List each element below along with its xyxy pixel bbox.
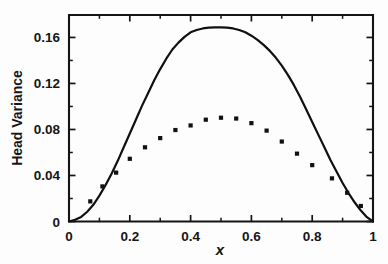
y-tick-label: 0.08 — [34, 122, 61, 137]
data-point-marker — [234, 116, 238, 120]
head-variance-plot: 00.040.080.120.1600.20.40.60.81 Head Var… — [0, 0, 388, 264]
axis-tick-labels: 00.040.080.120.1600.20.40.60.81 — [34, 30, 378, 243]
analytical-curve-series — [69, 27, 373, 221]
y-tick-label: 0 — [52, 215, 60, 230]
numerical-points-series — [88, 116, 363, 208]
y-tick-label: 0.04 — [34, 168, 61, 183]
data-point-marker — [189, 123, 193, 127]
x-tick-label: 0 — [65, 229, 73, 244]
data-point-marker — [100, 184, 104, 188]
data-point-marker — [249, 121, 253, 125]
y-tick-label: 0.12 — [34, 76, 60, 91]
x-tick-label: 0.8 — [303, 229, 322, 244]
data-point-marker — [114, 171, 118, 175]
data-point-marker — [173, 128, 177, 132]
data-point-marker — [295, 152, 299, 156]
x-tick-label: 1 — [369, 229, 377, 244]
data-point-marker — [359, 204, 363, 208]
data-point-marker — [204, 118, 208, 122]
x-tick-label: 0.4 — [181, 229, 200, 244]
data-point-marker — [158, 136, 162, 140]
data-point-marker — [219, 116, 223, 120]
y-axis-title: Head Variance — [9, 70, 25, 166]
data-point-marker — [265, 129, 269, 133]
data-point-marker — [143, 145, 147, 149]
analytical-curve-path — [69, 27, 373, 221]
y-tick-label: 0.16 — [34, 30, 61, 45]
data-point-marker — [280, 139, 284, 143]
x-tick-label: 0.6 — [242, 229, 261, 244]
data-point-marker — [345, 191, 349, 195]
chart-figure: 00.040.080.120.1600.20.40.60.81 Head Var… — [0, 0, 388, 264]
data-point-marker — [310, 163, 314, 167]
data-point-marker — [128, 157, 132, 161]
data-point-marker — [330, 176, 334, 180]
x-axis-title: x — [215, 241, 225, 258]
data-point-marker — [88, 199, 92, 203]
x-tick-label: 0.2 — [120, 229, 139, 244]
